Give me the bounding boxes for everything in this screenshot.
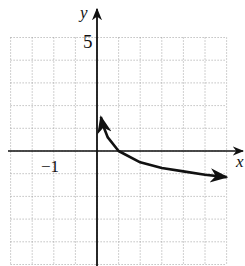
graph-plot	[0, 0, 245, 266]
curve-line	[101, 117, 227, 177]
tick-label-minus-1: −1	[41, 157, 59, 177]
y-tick-label-5: 5	[83, 31, 93, 53]
y-axis-label: y	[80, 3, 88, 23]
x-axis-label: x	[236, 152, 244, 172]
axes	[8, 9, 243, 266]
